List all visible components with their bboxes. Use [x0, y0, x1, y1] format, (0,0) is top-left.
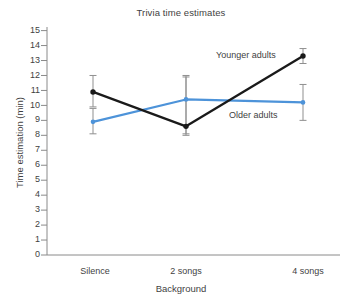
plot-area: [0, 0, 362, 299]
chart-figure: Trivia time estimates Time estimation (m…: [0, 0, 362, 299]
line-younger-adults: [93, 56, 303, 126]
y-axis-ticks: [41, 31, 47, 255]
error-bars-younger-adults: [90, 49, 307, 136]
error-bars-older-adults: [90, 77, 307, 134]
data-points-younger-adults: [90, 53, 305, 129]
